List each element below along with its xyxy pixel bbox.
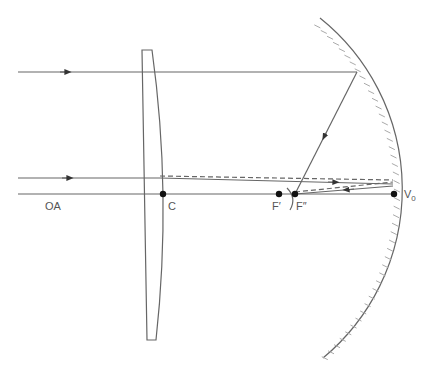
hatch-tick [333,42,339,45]
label-V0: V0 [404,188,416,203]
hatch-tick [394,198,400,201]
point-F-double-prime [292,191,298,197]
hatch-tick [345,332,351,335]
label-V-subscript: 0 [411,194,416,203]
hatch-tick [339,49,345,52]
hatch-tick [350,62,356,65]
arrow-icon [346,189,354,190]
hatch-tick [393,215,399,218]
arrow-icon [324,133,326,137]
hatch-tick [372,98,378,101]
label-F-double-prime: F″ [296,200,307,212]
hatch-tick [385,257,391,260]
point-C [160,191,166,197]
hatch-tick [379,273,385,276]
hatch-tick [364,83,370,86]
hatch-tick [359,76,365,79]
hatch-tick [368,91,374,94]
label-C: C [168,200,176,212]
hatch-tick [392,163,398,166]
hatch-tick [393,172,399,175]
point-F-prime [276,191,282,197]
hatch-tick [391,155,397,158]
hatch-tick [382,265,388,268]
mirror-hatching [314,25,400,360]
hatch-tick [327,36,333,39]
refracted-ray-solid [160,178,393,184]
point-V0 [391,191,397,197]
hatch-tick [382,122,388,125]
hatch-tick [355,69,361,72]
hatch-tick [391,232,397,235]
optical-diagram: OA C F′ F″ V0 [0,0,433,378]
hatch-tick [387,248,393,251]
hatch-tick [389,147,395,150]
label-F-prime: F′ [272,200,281,212]
hatch-tick [394,181,400,184]
hatch-tick [392,223,398,226]
hatch-tick [344,55,350,58]
hatch-tick [321,30,327,33]
small-arc-mark [287,188,293,210]
label-OA: OA [45,200,62,212]
hatch-tick [376,106,382,109]
hatch-tick [394,206,400,209]
lens [142,50,163,340]
hatch-tick [389,240,395,243]
hatch-tick [384,130,390,133]
hatch-tick [387,138,393,141]
hatch-tick [379,114,385,117]
hatch-tick [314,25,320,28]
